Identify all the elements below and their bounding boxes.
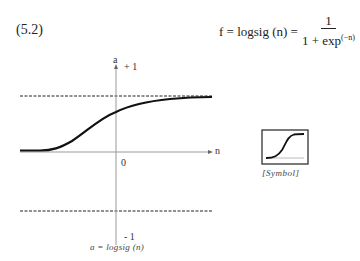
x-axis-label: n bbox=[215, 145, 220, 156]
lower-tick-label: - 1 bbox=[124, 231, 135, 242]
y-axis-label: a bbox=[113, 54, 117, 65]
x-axis-arrow-icon bbox=[208, 150, 213, 154]
symbol-caption: [Symbol] bbox=[262, 168, 300, 178]
plot-caption: a = logsig (n) bbox=[90, 242, 144, 252]
upper-tick-label: + 1 bbox=[124, 61, 137, 72]
logsig-plot bbox=[0, 0, 360, 261]
origin-label: 0 bbox=[121, 157, 126, 168]
symbol-box bbox=[262, 130, 308, 164]
